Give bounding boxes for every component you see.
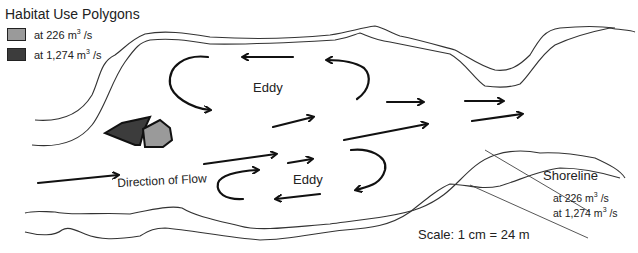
lower-shoreline-226 xyxy=(25,151,625,229)
eddy-arrow xyxy=(327,60,369,99)
legend-item-1274: at 1,274 m3 /s xyxy=(7,48,102,61)
legend-label-1274: at 1,274 m3 /s xyxy=(34,48,102,61)
river-map xyxy=(0,0,638,253)
legend-item-226: at 226 m3 /s xyxy=(7,28,92,41)
legend-swatch-226 xyxy=(7,28,26,41)
shoreline-226-label: at 226 m3 /s xyxy=(553,191,609,204)
eddy-arrow xyxy=(218,170,258,199)
flow-arrow xyxy=(273,117,313,127)
flow-arrow xyxy=(344,124,427,140)
flow-arrow xyxy=(472,114,522,121)
legend-label-226: at 226 m3 /s xyxy=(34,28,92,41)
scale-label: Scale: 1 cm = 24 m xyxy=(418,227,530,242)
eddy-arrow xyxy=(351,150,385,190)
eddy-label-top: Eddy xyxy=(253,80,283,95)
eddy-arrow xyxy=(276,194,320,199)
direction-arrow xyxy=(38,175,118,183)
shoreline-1274-label: at 1,274 m3 /s xyxy=(553,206,618,219)
legend-title: Habitat Use Polygons xyxy=(5,6,140,22)
legend-swatch-1274 xyxy=(7,48,26,61)
eddy-arrow xyxy=(170,57,210,110)
eddy-label-bottom: Eddy xyxy=(293,172,323,187)
shoreline-label: Shoreline xyxy=(543,168,598,183)
flow-arrow xyxy=(288,159,312,163)
flow-arrow xyxy=(204,154,276,164)
